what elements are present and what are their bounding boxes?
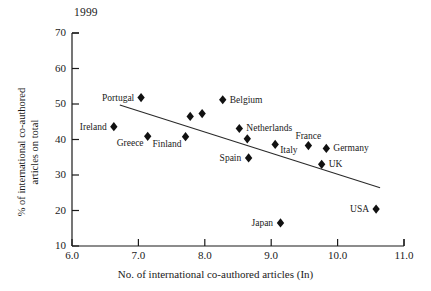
data-point-marker (318, 160, 325, 169)
data-point-marker (272, 140, 279, 149)
data-point-label: Germany (333, 143, 368, 153)
y-tick-label: 50 (44, 97, 66, 109)
y-tick-label: 60 (44, 62, 66, 74)
data-point-label: Finland (153, 139, 182, 149)
x-tick-label: 11.0 (384, 249, 424, 261)
data-point-marker (323, 144, 330, 153)
data-point-label: Portugal (102, 93, 134, 103)
data-point-label: Netherlands (246, 123, 292, 133)
data-point-marker (219, 95, 226, 104)
x-tick-label: 8.0 (185, 249, 225, 261)
data-point-marker (277, 218, 284, 227)
x-tick-label: 10.0 (318, 249, 358, 261)
data-point-label: France (295, 131, 321, 141)
data-point-label: Spain (220, 153, 242, 163)
data-point-label: Italy (280, 145, 297, 155)
chart-figure: 1999 % of international co-authored arti… (0, 0, 431, 291)
x-tick-label: 9.0 (251, 249, 291, 261)
data-point-marker (144, 132, 151, 141)
data-point-marker (244, 134, 251, 143)
x-tick-label: 6.0 (52, 249, 92, 261)
data-point-label: USA (350, 204, 369, 214)
y-tick-label: 20 (44, 204, 66, 216)
data-point-marker (187, 112, 194, 121)
data-point-marker (137, 93, 144, 102)
y-tick-label: 70 (44, 26, 66, 38)
data-point-label: UK (329, 159, 343, 169)
data-point-label: Greece (117, 138, 144, 148)
y-tick-label: 40 (44, 133, 66, 145)
data-point-marker (198, 109, 205, 118)
x-tick-label: 7.0 (118, 249, 158, 261)
data-point-marker (110, 122, 117, 131)
y-tick-label: 30 (44, 168, 66, 180)
data-point-marker (182, 132, 189, 141)
data-point-label: Belgium (230, 95, 263, 105)
data-point-label: Japan (251, 218, 273, 228)
data-point-label: Ireland (80, 122, 107, 132)
data-point-marker (236, 124, 243, 133)
data-point-marker (245, 153, 252, 162)
data-point-marker (372, 204, 379, 213)
data-point-marker (305, 141, 312, 150)
